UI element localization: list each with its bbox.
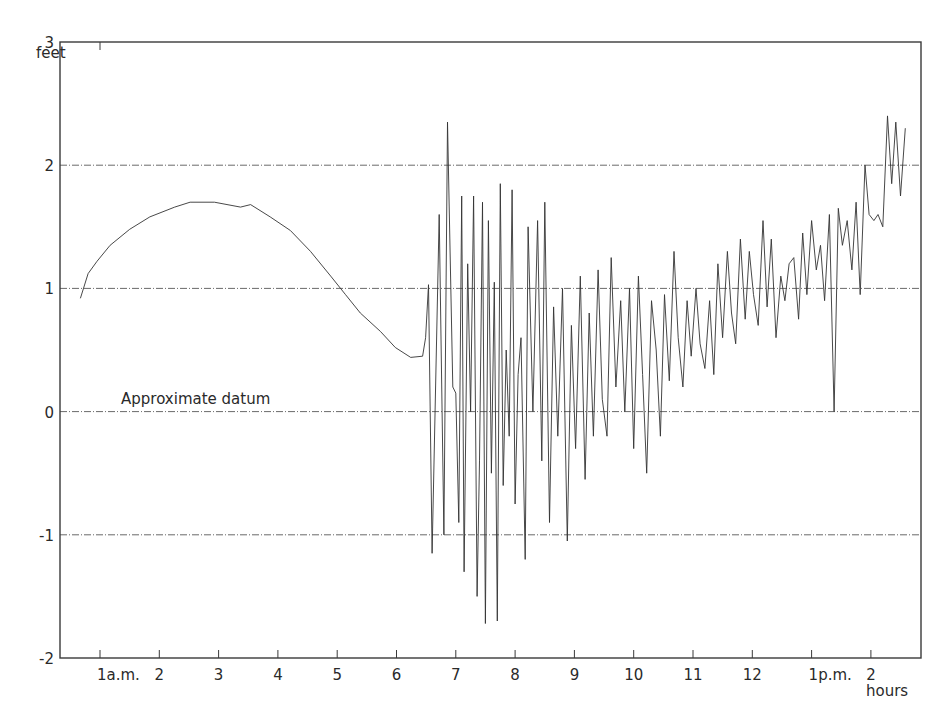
x-tick-label: 4 [273, 666, 283, 684]
x-axis-ticks: 1a.m.234567891011121p.m.2 [97, 42, 876, 684]
gridlines [60, 165, 921, 535]
datum-annotation: Approximate datum [121, 390, 270, 408]
plot-frame [60, 42, 921, 658]
y-tick-label: 0 [44, 404, 54, 422]
y-tick-label: -2 [39, 650, 54, 668]
x-tick-label: 1p.m. [809, 666, 852, 684]
tide-chart: 3210-1-2 1a.m.234567891011121p.m.2 feet … [0, 0, 947, 719]
x-tick-label: 11 [683, 666, 702, 684]
x-tick-label: 2 [155, 666, 165, 684]
water-level-series [80, 116, 905, 624]
x-tick-label: 12 [743, 666, 762, 684]
x-tick-label: 5 [332, 666, 342, 684]
x-tick-label: 9 [570, 666, 580, 684]
x-axis-label: hours [866, 682, 908, 700]
x-tick-label: 6 [392, 666, 402, 684]
x-tick-label: 7 [451, 666, 461, 684]
x-tick-label: 1a.m. [97, 666, 140, 684]
y-axis-label: feet [36, 44, 66, 62]
x-tick-label: 10 [624, 666, 643, 684]
y-tick-label: 2 [44, 157, 54, 175]
y-axis-ticks: 3210-1-2 [39, 34, 54, 668]
y-tick-label: -1 [39, 527, 54, 545]
y-tick-label: 1 [44, 280, 54, 298]
x-tick-label: 3 [214, 666, 224, 684]
x-tick-label: 8 [510, 666, 520, 684]
